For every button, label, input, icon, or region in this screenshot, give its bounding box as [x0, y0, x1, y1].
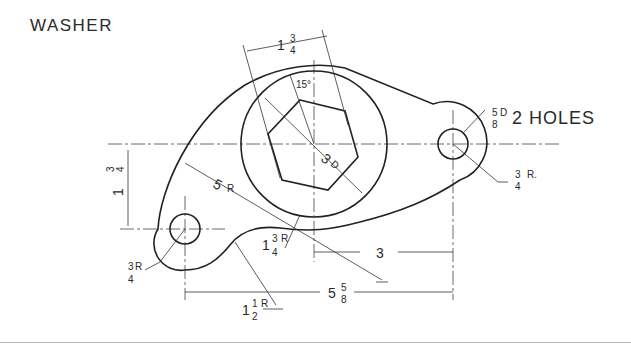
hex-width-whole: 1 — [277, 37, 285, 53]
hole-dia-num: 5 — [492, 107, 498, 118]
drawing-title: WASHER — [30, 16, 113, 35]
concave-radius-whole: 1 — [242, 302, 250, 318]
overall-length-whole: 5 — [328, 285, 336, 301]
holes-note: 2 HOLES — [512, 108, 595, 128]
diameter-leader — [265, 98, 362, 193]
hole-dia-den: 8 — [492, 119, 498, 130]
fillet-radius-den: 4 — [272, 247, 278, 258]
right-radius-suffix: R. — [527, 169, 537, 180]
right-radius-den: 4 — [515, 181, 521, 192]
vertical-offset-whole: 1 — [110, 188, 126, 196]
hole-dia-suffix: D — [500, 107, 507, 118]
left-radius-num: 3 — [128, 261, 134, 272]
left-radius-den: 4 — [128, 274, 134, 285]
circle-diameter-suffix: D — [329, 158, 342, 171]
left-radius-suffix: R — [135, 261, 142, 272]
washer-drawing: WASHER 1 3 4 15° 3 D 5 R 1 3 4 3 R 4 1 3… — [0, 0, 631, 353]
concave-radius-suffix: R — [261, 298, 268, 309]
large-radius-whole: 5 — [211, 176, 226, 194]
vertical-offset-den: 4 — [115, 166, 126, 172]
overall-length-num: 5 — [341, 282, 347, 293]
washer-outline — [154, 65, 487, 270]
horizontal-3-label: 3 — [376, 245, 384, 261]
large-radius-suffix: R — [227, 183, 234, 194]
concave-radius-den: 2 — [252, 311, 258, 322]
angle-label: 15° — [296, 79, 311, 90]
right-radius-num: 3 — [515, 169, 521, 180]
hex-width-den: 4 — [290, 45, 296, 56]
fillet-radius-num: 3 — [272, 233, 278, 244]
hex-width-dim-line — [247, 36, 327, 51]
page-border — [0, 342, 631, 343]
concave-radius-num: 1 — [252, 298, 258, 309]
fillet-radius-suffix: R — [281, 233, 288, 244]
hex-width-num: 3 — [290, 33, 296, 44]
overall-length-den: 8 — [341, 294, 347, 305]
fillet-radius-whole: 1 — [262, 237, 270, 253]
